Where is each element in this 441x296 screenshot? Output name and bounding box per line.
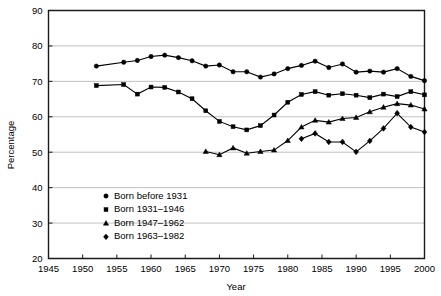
data-point-0-1952 bbox=[94, 64, 98, 68]
data-point-1-1972 bbox=[231, 125, 235, 129]
data-point-3-1982 bbox=[299, 136, 304, 142]
data-point-1-1982 bbox=[299, 93, 303, 97]
x-tick-label-1960: 1960 bbox=[140, 263, 161, 274]
data-point-0-1976 bbox=[258, 75, 262, 79]
data-point-0-1990 bbox=[354, 70, 358, 74]
series-2 bbox=[203, 101, 427, 157]
x-tick-label-1970: 1970 bbox=[209, 263, 230, 274]
x-tick-label-1995: 1995 bbox=[380, 263, 401, 274]
data-point-0-1972 bbox=[231, 70, 235, 74]
data-point-0-1960 bbox=[149, 54, 153, 58]
legend-label-0: Born before 1931 bbox=[114, 190, 187, 201]
y-tick-label-70: 70 bbox=[32, 76, 43, 87]
data-point-1-1992 bbox=[368, 96, 372, 100]
data-point-0-1984 bbox=[313, 59, 317, 63]
x-tick-label-1950: 1950 bbox=[72, 263, 93, 274]
data-point-1-1984 bbox=[313, 90, 317, 94]
x-axis-title: Year bbox=[226, 281, 245, 292]
data-point-0-1980 bbox=[286, 66, 290, 70]
data-point-2-1984 bbox=[312, 118, 317, 123]
y-tick-label-30: 30 bbox=[32, 218, 43, 229]
y-tick-label-80: 80 bbox=[32, 40, 43, 51]
chart-container: 2030405060708090 19451950195519601965197… bbox=[0, 0, 441, 296]
data-point-0-1992 bbox=[368, 69, 372, 73]
data-point-1-1996 bbox=[395, 95, 399, 99]
data-point-0-1974 bbox=[245, 70, 249, 74]
legend-marker-square-icon bbox=[104, 208, 108, 212]
y-tick-label-60: 60 bbox=[32, 111, 43, 122]
data-point-1-1990 bbox=[354, 93, 358, 97]
x-tick-label-1945: 1945 bbox=[38, 263, 59, 274]
series-line-1 bbox=[96, 85, 424, 130]
data-point-3-1988 bbox=[340, 139, 345, 145]
data-point-1-1970 bbox=[217, 119, 221, 123]
data-point-2-1972 bbox=[230, 145, 235, 150]
data-point-1-1994 bbox=[382, 92, 386, 96]
series-1 bbox=[94, 83, 426, 132]
data-point-0-1998 bbox=[409, 74, 413, 78]
data-point-1-1952 bbox=[94, 84, 98, 88]
data-point-1-1968 bbox=[204, 109, 208, 113]
legend-item-1[interactable]: Born 1931–1946 bbox=[104, 203, 184, 214]
data-point-1-1956 bbox=[122, 83, 126, 87]
y-tick-label-40: 40 bbox=[32, 182, 43, 193]
line-chart: 2030405060708090 19451950195519601965197… bbox=[0, 0, 441, 296]
data-point-0-1964 bbox=[176, 55, 180, 59]
data-point-1-1966 bbox=[190, 97, 194, 101]
data-point-1-1964 bbox=[176, 90, 180, 94]
data-point-1-1988 bbox=[341, 92, 345, 96]
data-point-1-1958 bbox=[135, 92, 139, 96]
data-point-1-1960 bbox=[149, 85, 153, 89]
data-point-1-1974 bbox=[245, 128, 249, 132]
data-point-0-1978 bbox=[272, 72, 276, 76]
data-point-3-2000 bbox=[422, 129, 427, 135]
x-tick-label-1990: 1990 bbox=[346, 263, 367, 274]
data-point-2-1968 bbox=[203, 149, 208, 154]
data-point-0-1958 bbox=[135, 58, 139, 62]
y-tick-labels-group: 2030405060708090 bbox=[32, 5, 43, 264]
plot-frame bbox=[49, 11, 425, 259]
data-point-0-1966 bbox=[190, 59, 194, 63]
legend-marker-circle-icon bbox=[104, 194, 108, 198]
data-point-0-1956 bbox=[122, 60, 126, 64]
legend-label-3: Born 1963–1982 bbox=[114, 230, 184, 241]
data-point-3-1984 bbox=[313, 131, 318, 137]
legend: Born before 1931Born 1931–1946Born 1947–… bbox=[103, 190, 187, 242]
data-point-1-1976 bbox=[258, 124, 262, 128]
legend-label-1: Born 1931–1946 bbox=[114, 203, 184, 214]
legend-label-2: Born 1947–1962 bbox=[114, 217, 184, 228]
x-tick-label-1985: 1985 bbox=[311, 263, 332, 274]
series-line-3 bbox=[301, 113, 424, 152]
tickmarks-group bbox=[49, 11, 425, 259]
x-tick-label-1980: 1980 bbox=[277, 263, 298, 274]
data-point-3-1986 bbox=[326, 139, 331, 145]
x-tick-label-2000: 2000 bbox=[414, 263, 435, 274]
data-point-0-1962 bbox=[163, 53, 167, 57]
data-series-group bbox=[94, 53, 427, 157]
series-0 bbox=[94, 53, 427, 83]
data-point-1-1978 bbox=[272, 113, 276, 117]
data-point-0-1996 bbox=[395, 66, 399, 70]
data-point-1-1962 bbox=[163, 85, 167, 89]
data-point-0-1986 bbox=[327, 65, 331, 69]
x-tick-labels-group: 1945195019551960196519701975198019851990… bbox=[38, 263, 435, 274]
data-point-1-1998 bbox=[409, 90, 413, 94]
legend-item-0[interactable]: Born before 1931 bbox=[104, 190, 188, 201]
y-tick-label-90: 90 bbox=[32, 5, 43, 16]
plot-frame-path bbox=[49, 11, 425, 259]
series-line-2 bbox=[206, 104, 425, 155]
data-point-0-1970 bbox=[217, 63, 221, 67]
legend-item-2[interactable]: Born 1947–1962 bbox=[103, 217, 184, 228]
x-tick-label-1965: 1965 bbox=[175, 263, 196, 274]
x-tick-label-1975: 1975 bbox=[243, 263, 264, 274]
data-point-1-1986 bbox=[327, 93, 331, 97]
data-point-0-1968 bbox=[204, 64, 208, 68]
data-point-0-1988 bbox=[340, 62, 344, 66]
data-point-0-1994 bbox=[381, 70, 385, 74]
data-point-0-2000 bbox=[422, 78, 426, 82]
legend-item-3[interactable]: Born 1963–1982 bbox=[104, 230, 185, 241]
legend-marker-diamond-icon bbox=[104, 234, 109, 240]
x-tick-label-1955: 1955 bbox=[106, 263, 127, 274]
y-tick-label-50: 50 bbox=[32, 147, 43, 158]
y-axis-title: Percentage bbox=[5, 121, 16, 170]
